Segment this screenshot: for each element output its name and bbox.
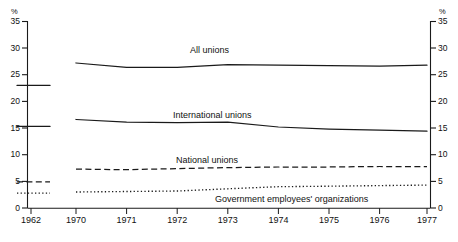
left-ytick-label-25: 25	[5, 69, 20, 79]
xtick-label-1962: 1962	[11, 215, 51, 225]
left-ytick-label-15: 15	[5, 123, 20, 133]
xtick-label-1970: 1970	[56, 215, 96, 225]
xtick-label-1971: 1971	[107, 215, 147, 225]
series-line-national-unions	[76, 167, 427, 170]
right-ytick-label-20: 20	[438, 96, 447, 106]
right-ytick-label-0: 0	[438, 203, 443, 213]
xtick-label-1972: 1972	[157, 215, 197, 225]
xtick-label-1975: 1975	[309, 215, 349, 225]
xtick-label-1974: 1974	[258, 215, 298, 225]
right-ytick-label-25: 25	[438, 69, 447, 79]
left-ytick-label-10: 10	[5, 149, 20, 159]
xtick-label-1976: 1976	[360, 215, 400, 225]
right-ytick-label-10: 10	[438, 149, 447, 159]
series-label-all-unions: All unions	[190, 45, 229, 55]
series-line-all-unions	[76, 63, 427, 67]
right-ytick-label-35: 35	[438, 16, 447, 26]
series-line-international-unions	[76, 120, 427, 132]
series-label-national-unions: National unions	[176, 155, 238, 165]
series-label-government-employees: Government employees' organizations	[215, 194, 368, 204]
right-ytick-label-5: 5	[438, 176, 443, 186]
left-ytick-label-5: 5	[5, 176, 20, 186]
left-ytick-label-20: 20	[5, 96, 20, 106]
left-ytick-label-35: 35	[5, 16, 20, 26]
xtick-label-1973: 1973	[208, 215, 248, 225]
left-ytick-label-30: 30	[5, 43, 20, 53]
chart-canvas	[0, 0, 458, 242]
left-ytick-label-0: 0	[5, 203, 20, 213]
right-ytick-label-30: 30	[438, 43, 447, 53]
left-axis-unit: %	[11, 7, 18, 16]
series-line-government-employees	[76, 185, 427, 192]
union-membership-chart: % % 35 30 25 20 15 10 5 0 35 30 25 20 15…	[0, 0, 458, 242]
xtick-label-1977: 1977	[407, 215, 447, 225]
right-axis-unit: %	[439, 7, 446, 16]
series-label-international-unions: International unions	[173, 110, 252, 120]
right-ytick-label-15: 15	[438, 123, 447, 133]
